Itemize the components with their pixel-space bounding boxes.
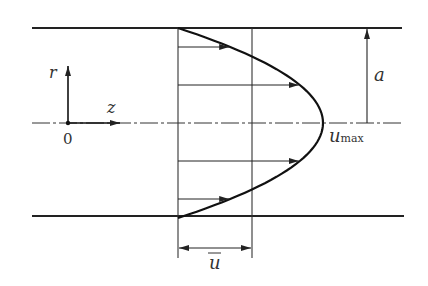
u-max-label: umax [329,125,365,146]
z-axis-label: z [106,98,116,117]
radius-label: a [374,64,385,85]
origin-label: 0 [63,130,73,148]
origin-dot [66,121,70,125]
mean-velocity-label: u [209,252,221,273]
r-axis-label: r [49,63,58,82]
pipe-flow-diagram: r z 0 a umax u [0,0,428,286]
